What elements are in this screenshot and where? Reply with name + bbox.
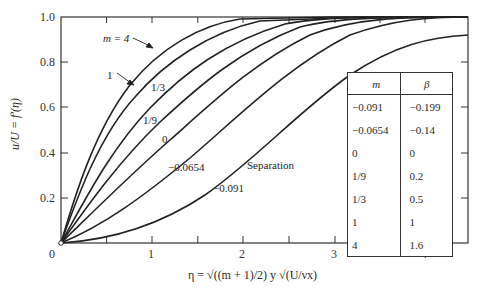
svg-text:0: 0 bbox=[49, 247, 55, 261]
svg-text:0.8: 0.8 bbox=[40, 55, 55, 69]
curve-labels: m = 4 1 1/3 1/9 0 −0.0654 −0.091 Separat… bbox=[103, 32, 295, 194]
svg-text:1.0: 1.0 bbox=[40, 10, 55, 24]
origin-marker bbox=[59, 241, 64, 246]
y-axis-label: u/U = f′(η) bbox=[8, 98, 23, 150]
table-row: 1/30.5 bbox=[348, 187, 453, 210]
parameter-table: m β −0.091−0.199 −0.0654−0.14 00 1/90.2 … bbox=[347, 72, 453, 257]
label-separation: Separation bbox=[247, 159, 295, 171]
svg-text:0.4: 0.4 bbox=[40, 146, 55, 160]
svg-text:0.2: 0.2 bbox=[40, 191, 55, 205]
label-m-1: 1 bbox=[107, 69, 113, 81]
table-row: −0.0654−0.14 bbox=[348, 118, 453, 141]
table-row: −0.091−0.199 bbox=[348, 95, 453, 119]
label-m-neg-0654: −0.0654 bbox=[168, 161, 205, 173]
label-m-1-9: 1/9 bbox=[143, 114, 158, 126]
svg-text:2: 2 bbox=[239, 247, 245, 261]
label-m-neg-091: −0.091 bbox=[213, 182, 244, 194]
svg-text:3: 3 bbox=[331, 247, 337, 261]
label-m-0: 0 bbox=[162, 133, 168, 145]
table-row: 41.6 bbox=[348, 233, 453, 257]
x-axis-label: η = √((m + 1)/2) y √(U/νx) bbox=[188, 268, 317, 283]
y-tick-labels: 0.2 0.4 0.6 0.8 1.0 bbox=[40, 10, 55, 205]
label-m-4: m = 4 bbox=[103, 32, 130, 44]
label-m-1-3: 1/3 bbox=[151, 81, 166, 93]
table-row: 1/90.2 bbox=[348, 164, 453, 187]
table-row: 11 bbox=[348, 210, 453, 233]
svg-text:0.6: 0.6 bbox=[40, 100, 55, 114]
table-row: 00 bbox=[348, 141, 453, 164]
header-m: m bbox=[348, 73, 401, 95]
header-beta: β bbox=[401, 73, 453, 95]
svg-text:1: 1 bbox=[148, 247, 154, 261]
